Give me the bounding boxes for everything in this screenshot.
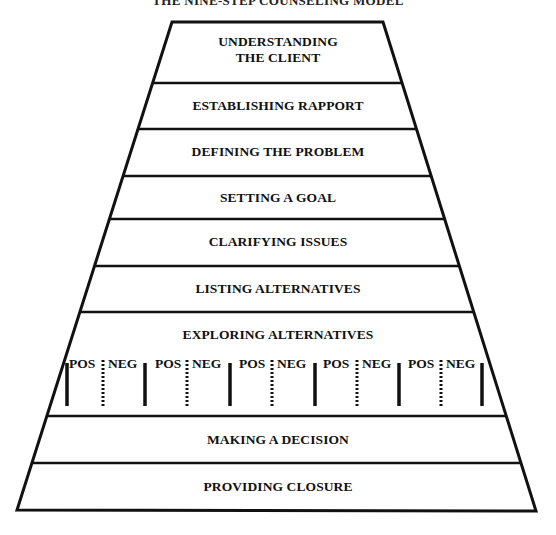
step-clarifying-issues: CLARIFYING ISSUES xyxy=(0,234,556,250)
neg-label: NEG xyxy=(277,356,306,372)
step-exploring-alternatives: EXPLORING ALTERNATIVES xyxy=(0,327,556,343)
step-providing-closure: PROVIDING CLOSURE xyxy=(0,479,556,495)
step-establishing-rapport: ESTABLISHING RAPPORT xyxy=(0,98,556,114)
step-making-a-decision: MAKING A DECISION xyxy=(0,432,556,448)
step-defining-the-problem: DEFINING THE PROBLEM xyxy=(0,144,556,160)
pos-label: POS xyxy=(408,356,434,372)
pos-label: POS xyxy=(69,356,95,372)
pos-label: POS xyxy=(323,356,349,372)
step-setting-a-goal: SETTING A GOAL xyxy=(0,190,556,206)
neg-label: NEG xyxy=(192,356,221,372)
neg-label: NEG xyxy=(362,356,391,372)
funnel-frame xyxy=(0,0,556,535)
step-understanding-the-client: UNDERSTANDING THE CLIENT xyxy=(0,34,556,66)
step-label-line1: UNDERSTANDING xyxy=(0,34,556,50)
step-dividers xyxy=(33,83,521,463)
step-label-line2: THE CLIENT xyxy=(0,50,556,66)
pos-label: POS xyxy=(155,356,181,372)
pos-label: POS xyxy=(239,356,265,372)
step-listing-alternatives: LISTING ALTERNATIVES xyxy=(0,281,556,297)
neg-label: NEG xyxy=(446,356,475,372)
neg-label: NEG xyxy=(108,356,137,372)
